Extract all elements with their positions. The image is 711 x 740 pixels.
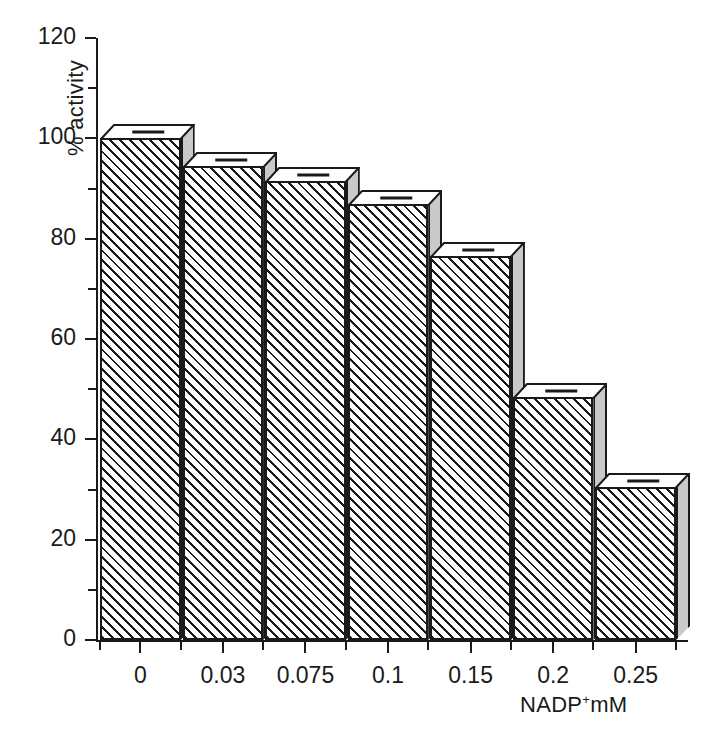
x-tick-major bbox=[139, 642, 141, 653]
x-tick-label: 0.15 bbox=[448, 662, 493, 688]
y-tick-label: 0 bbox=[63, 626, 76, 651]
y-tick-major: 20 bbox=[85, 539, 96, 541]
bar bbox=[265, 167, 360, 640]
y-tick-label: 100 bbox=[38, 124, 76, 149]
bar-top-face bbox=[513, 383, 608, 399]
bar bbox=[430, 242, 525, 640]
y-tick-major: 120 bbox=[85, 37, 96, 39]
y-axis-line bbox=[96, 38, 98, 642]
figure: % activity 020406080100120 00.030.0750.1… bbox=[0, 0, 711, 740]
bar bbox=[595, 473, 690, 640]
x-tick-minor bbox=[675, 642, 677, 650]
bar-front-face bbox=[513, 397, 594, 640]
x-tick-label: 0 bbox=[134, 662, 147, 688]
x-tick-major bbox=[387, 642, 389, 653]
bar-front-face bbox=[348, 204, 429, 640]
bar-top-face bbox=[430, 242, 525, 258]
bar-top-face bbox=[183, 152, 278, 168]
x-tick-major bbox=[635, 642, 637, 653]
bar-top-face bbox=[595, 473, 690, 489]
bar-top-face bbox=[100, 124, 195, 140]
y-tick-minor bbox=[88, 388, 96, 390]
y-tick-major: 0 bbox=[85, 639, 96, 641]
x-tick-label: 0.075 bbox=[277, 662, 335, 688]
x-tick-minor bbox=[99, 642, 101, 650]
x-tick-major bbox=[304, 642, 306, 653]
x-tick-major bbox=[470, 642, 472, 653]
bar-front-face bbox=[430, 256, 511, 640]
y-tick-major: 40 bbox=[85, 438, 96, 440]
x-tick-minor bbox=[262, 642, 264, 650]
x-tick-major bbox=[222, 642, 224, 653]
y-tick-major: 80 bbox=[85, 238, 96, 240]
x-tick-major bbox=[552, 642, 554, 653]
x-tick-label: 0.03 bbox=[200, 662, 245, 688]
y-tick-minor bbox=[88, 589, 96, 591]
x-tick-label: 0.2 bbox=[537, 662, 569, 688]
bar-front-face bbox=[100, 138, 181, 640]
bar-top-face bbox=[348, 190, 443, 206]
y-tick-label: 120 bbox=[38, 24, 76, 49]
bar bbox=[348, 190, 443, 640]
bar-front-face bbox=[183, 166, 264, 640]
bar-top-face bbox=[265, 167, 360, 183]
bar bbox=[183, 152, 278, 640]
x-tick-minor bbox=[345, 642, 347, 650]
x-tick-label: 0.1 bbox=[372, 662, 404, 688]
y-tick-label: 80 bbox=[50, 225, 76, 250]
bar-front-face bbox=[265, 181, 346, 640]
y-tick-label: 20 bbox=[50, 526, 76, 551]
x-tick-minor bbox=[510, 642, 512, 650]
bar-side-face bbox=[676, 473, 690, 640]
plot-area: 020406080100120 00.030.0750.10.150.20.25 bbox=[96, 38, 688, 642]
x-axis-label-tail: mM bbox=[590, 692, 627, 717]
x-axis-line bbox=[96, 640, 688, 642]
y-tick-minor bbox=[88, 489, 96, 491]
bar-front-face bbox=[595, 487, 676, 640]
y-tick-minor bbox=[88, 87, 96, 89]
y-tick-major: 100 bbox=[85, 137, 96, 139]
x-axis-label: NADP+mM bbox=[520, 692, 628, 718]
x-tick-minor bbox=[592, 642, 594, 650]
y-tick-minor bbox=[88, 188, 96, 190]
bar bbox=[100, 124, 195, 640]
x-tick-minor bbox=[180, 642, 182, 650]
x-tick-minor bbox=[427, 642, 429, 650]
y-tick-label: 40 bbox=[50, 425, 76, 450]
bar bbox=[513, 383, 608, 640]
x-axis-label-base: NADP bbox=[520, 692, 582, 717]
y-axis-label: % activity bbox=[63, 48, 89, 168]
y-tick-label: 60 bbox=[50, 325, 76, 350]
x-tick-label: 0.25 bbox=[613, 662, 658, 688]
y-tick-minor bbox=[88, 288, 96, 290]
y-tick-major: 60 bbox=[85, 338, 96, 340]
